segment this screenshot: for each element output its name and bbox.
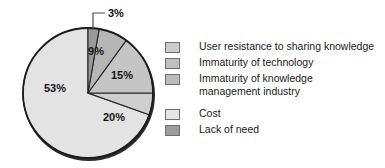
legend-swatch-immaturity-technology (165, 58, 180, 69)
legend-item-cost: Cost (165, 107, 383, 120)
legend-item-immaturity-technology: Immaturity of technology (165, 56, 383, 69)
legend-label-user-resistance: User resistance to sharing knowledge (199, 40, 374, 53)
legend-swatch-lack-of-need (165, 125, 180, 136)
pie-label-9: 9% (88, 45, 104, 57)
pie-label-3: 3% (108, 7, 124, 19)
legend-label-lack-of-need: Lack of need (199, 123, 259, 136)
chart-legend: User resistance to sharing knowledge Imm… (165, 40, 383, 139)
legend-label-cost: Cost (199, 107, 221, 120)
pie-label-53: 53% (44, 82, 66, 94)
legend-swatch-immaturity-km-industry (165, 74, 180, 85)
legend-swatch-user-resistance (165, 42, 180, 53)
callout-line-3 (93, 13, 105, 30)
pie-label-15: 15% (111, 69, 133, 81)
legend-swatch-cost (165, 109, 180, 120)
pie-label-20: 20% (103, 111, 125, 123)
legend-label-immaturity-technology: Immaturity of technology (199, 56, 313, 69)
legend-label-immaturity-km-industry: Immaturity of knowledge management indus… (199, 72, 313, 98)
legend-item-user-resistance: User resistance to sharing knowledge (165, 40, 383, 53)
legend-item-immaturity-km-industry: Immaturity of knowledge management indus… (165, 72, 383, 98)
pie-chart-figure: 3% 9% 15% 20% 53% User resistance to sha… (0, 0, 385, 168)
legend-item-lack-of-need: Lack of need (165, 123, 383, 136)
